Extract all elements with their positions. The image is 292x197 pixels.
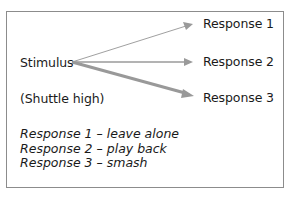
- legend-item: Response 3 – smash: [20, 156, 179, 171]
- condition-label: (Shuttle high): [20, 92, 104, 106]
- response-1-label: Response 1: [203, 17, 274, 31]
- response-3-label: Response 3: [203, 91, 274, 105]
- legend-item: Response 1 – leave alone: [20, 127, 179, 142]
- arrow-to-response-1: [72, 22, 193, 62]
- legend: Response 1 – leave alone Response 2 – pl…: [20, 127, 179, 171]
- arrow-to-response-2: [72, 58, 193, 66]
- response-2-label: Response 2: [203, 55, 274, 69]
- legend-item: Response 2 – play back: [20, 142, 179, 157]
- stimulus-label: Stimulus: [20, 56, 74, 70]
